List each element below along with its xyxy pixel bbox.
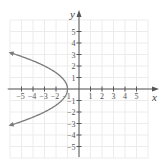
y-tick-label: 2 [72, 62, 76, 71]
x-tick-label: −2 [51, 92, 60, 101]
y-tick-label: 3 [72, 51, 76, 60]
x-tick-label: 1 [89, 92, 93, 101]
y-axis-label: y [69, 8, 75, 20]
x-tick-label: −3 [39, 92, 48, 101]
y-tick-label: −1 [67, 97, 76, 106]
x-tick-label: 2 [100, 92, 104, 101]
y-tick-label: −2 [67, 108, 76, 117]
parabola-graph: −5−4−3−2−112345 −5−4−3−2−112345 x y [0, 0, 165, 167]
y-tick-label: −4 [67, 131, 76, 140]
x-tick-label: 3 [112, 92, 116, 101]
x-tick-label: 5 [135, 92, 139, 101]
y-tick-label: −5 [67, 143, 76, 152]
y-tick-label: 1 [72, 74, 76, 83]
y-tick-label: −3 [67, 120, 76, 129]
y-tick-label: 4 [72, 39, 76, 48]
x-axis-label: x [151, 91, 157, 103]
x-tick-label: −4 [28, 92, 37, 101]
x-tick-labels: −5−4−3−2−112345 [16, 92, 138, 101]
x-tick-label: 4 [123, 92, 127, 101]
x-tick-label: −5 [16, 92, 25, 101]
y-tick-label: 5 [72, 28, 76, 37]
